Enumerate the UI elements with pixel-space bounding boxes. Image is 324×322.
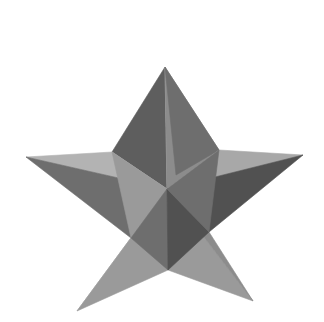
figure-container: B bbox=[0, 0, 324, 322]
star-figure bbox=[0, 0, 324, 322]
